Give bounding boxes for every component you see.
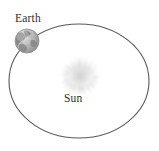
earth-label: Earth <box>15 12 41 24</box>
sun-label: Sun <box>64 92 83 104</box>
orbit-diagram: Earth Sun <box>0 0 159 151</box>
earth-globe-icon <box>15 29 39 53</box>
sun-starburst-icon <box>60 56 100 96</box>
